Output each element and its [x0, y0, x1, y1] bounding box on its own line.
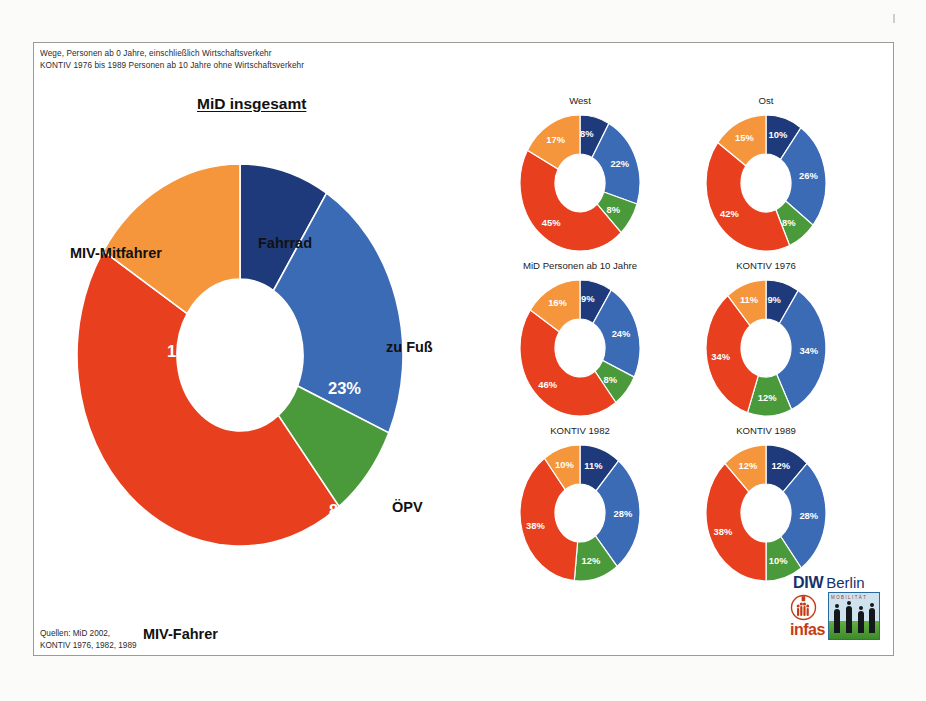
main-slice-value-fahrrad: 9% — [243, 317, 267, 336]
small-donut-kontiv76: 9%34%12%34%11% — [704, 278, 828, 418]
small-slice-value-miv-fahrer: 42% — [720, 208, 739, 219]
small-donut-west: 8%22%8%45%17% — [518, 113, 642, 253]
main-category-label-oepv: ÖPV — [392, 499, 423, 515]
figure-silhouette — [869, 608, 875, 633]
main-chart-block: MiD insgesamt 9% 23% 8% 45% 16% Fahrrad … — [45, 95, 475, 575]
small-slice-value-fahrrad: 10% — [769, 129, 788, 140]
small-donut-svg-mid10 — [518, 278, 642, 418]
small-chart-kontiv76: KONTIV 1976 9%34%12%34%11% — [676, 260, 856, 423]
small-slice-value-oepv: 8% — [603, 374, 617, 385]
small-slice-value-oepv: 10% — [769, 555, 788, 566]
small-slice-value-oepv: 12% — [758, 392, 777, 403]
main-slice-value-zu-fuss: 23% — [328, 379, 361, 398]
small-slice-value-miv-mitfahrer: 12% — [739, 460, 758, 471]
small-slice-value-zu-fuss: 28% — [799, 510, 818, 521]
diw-text: DIW — [793, 574, 823, 591]
header-note-line-2: KONTIV 1976 bis 1989 Personen ab 10 Jahr… — [40, 60, 304, 72]
small-chart-mid10: MiD Personen ab 10 Jahre 9%24%8%46%16% — [490, 260, 670, 423]
main-donut — [73, 160, 408, 550]
small-chart-title-ost: Ost — [676, 95, 856, 106]
small-donut-kontiv89: 12%28%10%38%12% — [704, 443, 828, 583]
small-chart-kontiv89: KONTIV 1989 12%28%10%38%12% — [676, 425, 856, 588]
small-slice-value-miv-mitfahrer: 10% — [555, 459, 574, 470]
scan-artifact-speck — [893, 14, 895, 23]
small-slice-value-zu-fuss: 22% — [610, 158, 629, 169]
small-chart-title-west: West — [490, 95, 670, 106]
small-slice-value-fahrrad: 9% — [767, 294, 781, 305]
infas-photo-caption: MOBILITÄT — [831, 595, 867, 600]
figure-silhouette — [846, 606, 852, 633]
small-slice-value-miv-fahrer: 38% — [714, 526, 733, 537]
small-donut-kontiv82: 11%28%12%38%10% — [518, 443, 642, 583]
source-line-2: KONTIV 1976, 1982, 1989 — [40, 640, 137, 652]
small-slice-value-miv-mitfahrer: 11% — [740, 294, 758, 305]
main-slice-value-miv-mitfahrer: 16% — [167, 342, 200, 361]
figure-silhouette — [834, 609, 840, 633]
small-slice-value-fahrrad: 9% — [581, 293, 595, 304]
main-chart-title: MiD insgesamt — [197, 95, 306, 113]
small-donut-svg-ost — [704, 113, 828, 253]
small-chart-title-mid10: MiD Personen ab 10 Jahre — [490, 260, 670, 271]
small-slice-value-miv-fahrer: 46% — [538, 379, 557, 390]
main-category-label-miv-mitfahrer: MIV-Mitfahrer — [70, 245, 162, 261]
small-slice-value-miv-fahrer: 38% — [526, 520, 545, 531]
infas-photo-image: MOBILITÄT — [828, 592, 880, 640]
main-category-label-zu-fuss: zu Fuß — [386, 339, 433, 355]
small-chart-title-kontiv76: KONTIV 1976 — [676, 260, 856, 271]
source-line-1: Quellen: MiD 2002, — [40, 628, 137, 640]
source-note: Quellen: MiD 2002, KONTIV 1976, 1982, 19… — [40, 628, 137, 651]
berlin-text: Berlin — [826, 574, 864, 591]
main-slice-value-miv-fahrer: 45% — [178, 542, 211, 561]
small-slice-value-zu-fuss: 34% — [799, 345, 818, 356]
small-slice-value-fahrrad: 11% — [584, 460, 602, 471]
small-slice-value-zu-fuss: 26% — [799, 170, 818, 181]
small-slice-value-miv-mitfahrer: 15% — [735, 132, 754, 143]
small-charts-grid: West 8%22%8%45%17% Ost 10%26%8%42%15% Mi… — [490, 95, 880, 585]
small-chart-title-kontiv82: KONTIV 1982 — [490, 425, 670, 436]
small-slice-value-miv-fahrer: 34% — [711, 351, 730, 362]
small-slice-value-fahrrad: 8% — [580, 128, 594, 139]
diw-berlin-wordmark: DIWBerlin — [793, 574, 865, 592]
figure-silhouette — [858, 611, 864, 633]
infas-emblem-icon — [790, 594, 817, 621]
small-chart-kontiv82: KONTIV 1982 11%28%12%38%10% — [490, 425, 670, 588]
small-slice-value-miv-mitfahrer: 17% — [546, 134, 565, 145]
small-slice-value-oepv: 8% — [782, 217, 796, 228]
small-slice-value-miv-fahrer: 45% — [542, 217, 561, 228]
small-donut-ost: 10%26%8%42%15% — [704, 113, 828, 253]
small-slice-value-zu-fuss: 24% — [612, 328, 631, 339]
small-slice-value-oepv: 12% — [582, 555, 601, 566]
header-notes: Wege, Personen ab 0 Jahre, einschließlic… — [40, 48, 304, 71]
logo-block: DIWBerlin infas MOBILITÄT — [785, 574, 885, 642]
main-category-label-fahrrad: Fahrrad — [258, 235, 312, 251]
small-slice-value-miv-mitfahrer: 16% — [548, 297, 567, 308]
small-chart-ost: Ost 10%26%8%42%15% — [676, 95, 856, 258]
small-chart-title-kontiv89: KONTIV 1989 — [676, 425, 856, 436]
small-chart-west: West 8%22%8%45%17% — [490, 95, 670, 258]
small-slice-value-fahrrad: 12% — [771, 460, 790, 471]
header-note-line-1: Wege, Personen ab 0 Jahre, einschließlic… — [40, 48, 304, 60]
main-category-label-miv-fahrer: MIV-Fahrer — [143, 626, 218, 642]
main-slice-value-oepv: 8% — [329, 501, 353, 520]
infas-wordmark: infas — [790, 621, 825, 639]
small-slice-value-zu-fuss: 28% — [613, 508, 632, 519]
small-slice-value-oepv: 8% — [607, 204, 621, 215]
small-donut-mid10: 9%24%8%46%16% — [518, 278, 642, 418]
main-donut-svg — [73, 160, 408, 550]
